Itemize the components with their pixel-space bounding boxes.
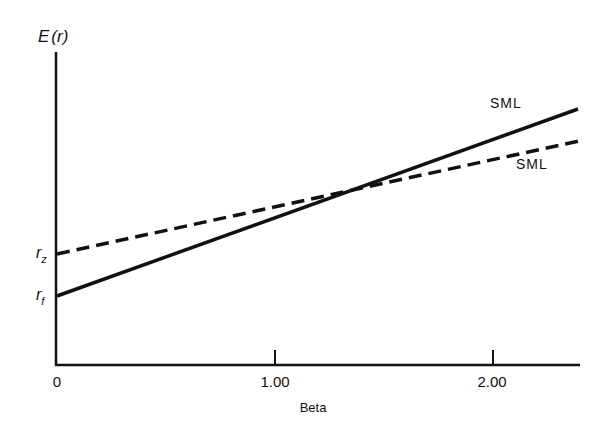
- sml-dashed-line: [57, 141, 579, 254]
- y-label-rz: rz: [36, 244, 47, 265]
- x-tick-label-0: 0: [53, 373, 61, 390]
- x-axis-title: Beta: [300, 400, 328, 415]
- chart-canvas: E(r) 0 1.00 2.00 Beta rz rf SML SML: [0, 0, 608, 440]
- x-tick-label-2: 2.00: [477, 373, 506, 390]
- x-tick-label-1: 1.00: [260, 373, 289, 390]
- sml-solid-label: SML: [490, 95, 522, 111]
- sml-solid-line: [57, 109, 578, 296]
- y-axis-title: E(r): [38, 27, 68, 46]
- sml-dashed-label: SML: [516, 156, 548, 172]
- y-label-rf: rf: [36, 286, 45, 307]
